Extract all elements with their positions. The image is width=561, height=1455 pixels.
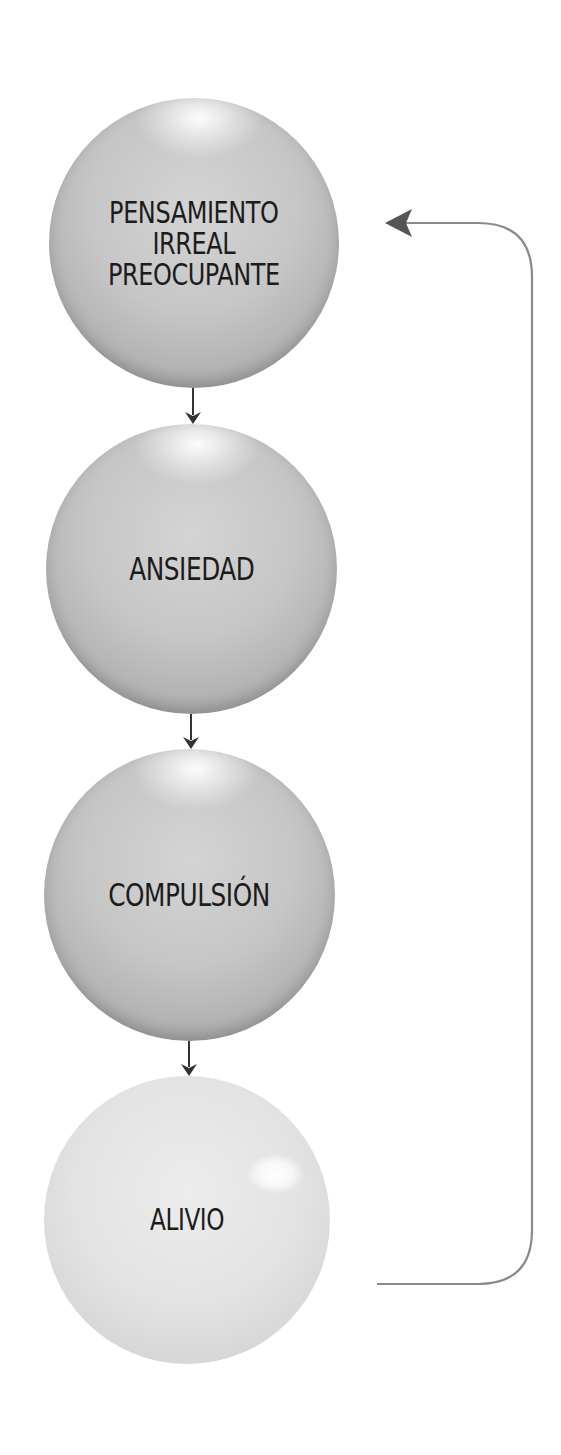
node-label: COMPULSIÓN: [109, 879, 271, 911]
node-compulsion: COMPULSIÓN: [44, 749, 335, 1041]
node-pensamiento-irreal-preocupante: PENSAMIENTO IRREAL PREOCUPANTE: [49, 98, 339, 388]
feedback-arrow-n4-to-n1: [377, 209, 532, 1284]
node-ansiedad: ANSIEDAD: [46, 424, 337, 714]
arrow-n3-to-n4: [181, 1041, 197, 1076]
node-label: PENSAMIENTO IRREAL PREOCUPANTE: [108, 197, 280, 290]
node-alivio: ALIVIO: [44, 1076, 330, 1364]
node-label: ALIVIO: [150, 1205, 224, 1235]
node-label: ANSIEDAD: [129, 553, 254, 585]
ocd-cycle-diagram: PENSAMIENTO IRREAL PREOCUPANTE ANSIEDAD …: [0, 0, 561, 1455]
arrow-n2-to-n3: [183, 714, 199, 749]
arrow-n1-to-n2: [185, 388, 201, 424]
